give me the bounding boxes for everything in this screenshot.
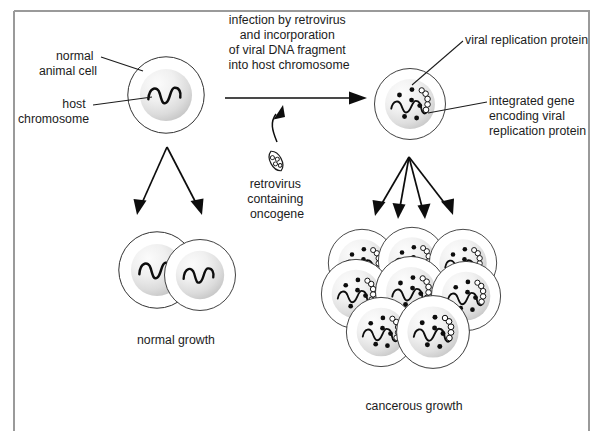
cancerous-growth-label: cancerous growth: [365, 399, 462, 413]
normal-growth-cell: [165, 240, 236, 311]
integrated-gene-label: integrated gene encoding viral replicati…: [489, 94, 586, 138]
cancerous-growth-cluster: [321, 227, 500, 368]
normal-growth-cluster: [119, 232, 236, 311]
cancerous-division-arrows: [373, 157, 455, 219]
normal-division-arrows: [134, 147, 204, 215]
normal-animal-cell-label: normal animal cell: [39, 49, 97, 78]
cancerous-cell: [397, 296, 470, 369]
infection-caption: infection by retrovirus and incorporatio…: [229, 13, 350, 72]
figure-canvas: normal animal cell host chromosome infec…: [0, 0, 604, 431]
retrovirus-particle-icon: [266, 149, 286, 174]
host-chromosome-label: host chromosome: [18, 97, 89, 126]
viral-replication-protein-leader: [412, 41, 463, 85]
figure-frame: [14, 11, 589, 431]
normal-animal-cell: [128, 57, 204, 133]
infection-transition-arrow: [225, 92, 367, 105]
viral-replication-protein-label: viral replication protein: [465, 33, 588, 47]
retrovirus-entry-arrow: [272, 105, 285, 142]
retrovirus-oncogene-diagram: normal animal cell host chromosome infec…: [0, 0, 604, 431]
normal-animal-cell-leader: [101, 57, 143, 71]
infected-cell: [375, 69, 446, 140]
retrovirus-caption: retrovirus containing oncogene: [247, 177, 307, 221]
normal-growth-label: normal growth: [137, 333, 215, 347]
